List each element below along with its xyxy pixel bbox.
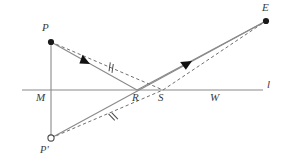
label-line-l: l xyxy=(267,79,270,90)
arrow-triangle xyxy=(180,57,194,70)
arrowhead-on-R-to-E xyxy=(180,57,194,70)
label-point-P: P xyxy=(42,22,49,33)
tick-stroke-2 xyxy=(112,111,118,120)
label-point-R: R xyxy=(132,92,139,103)
point-E xyxy=(263,18,269,24)
label-point-E: E xyxy=(262,2,269,13)
label-point-P-prime: P' xyxy=(40,145,49,156)
segment-P-to-R xyxy=(51,42,137,90)
dashed-Pprime-to-S xyxy=(51,90,163,138)
segment-Pprime-to-E xyxy=(51,21,266,138)
label-point-W: W xyxy=(210,92,219,103)
dashed-S-to-E xyxy=(163,21,266,90)
geometry-figure: P E P' M R S W l xyxy=(0,0,285,166)
label-point-S: S xyxy=(158,92,164,103)
label-point-M: M xyxy=(36,92,45,103)
point-P-prime xyxy=(48,135,54,141)
point-P xyxy=(48,39,54,45)
tick-stroke-1 xyxy=(109,113,115,122)
dashed-P-to-S xyxy=(51,42,163,90)
solid-lines-group xyxy=(22,21,266,138)
